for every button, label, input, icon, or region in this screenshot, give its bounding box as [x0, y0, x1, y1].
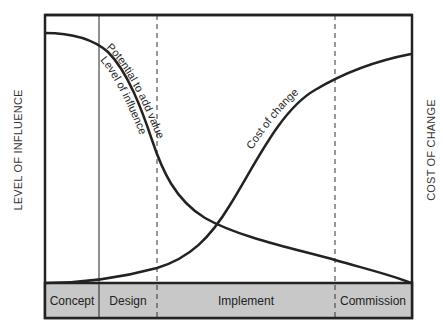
influence-cost-diagram: Potential to add value Level of influenc… — [0, 0, 443, 331]
phase-design: Design — [109, 294, 146, 308]
right-axis-label: COST OF CHANGE — [425, 99, 437, 201]
phase-commission: Commission — [340, 294, 406, 308]
phase-concept: Concept — [50, 294, 95, 308]
phase-implement: Implement — [218, 294, 275, 308]
left-axis-label: LEVEL OF INFLUENCE — [12, 89, 24, 210]
